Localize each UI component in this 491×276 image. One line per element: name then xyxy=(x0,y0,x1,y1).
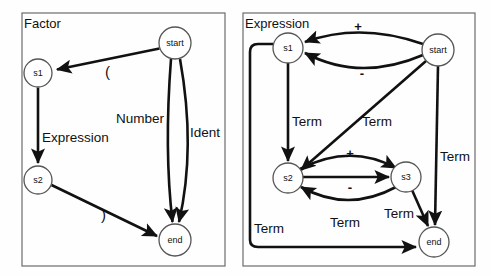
node-s1-expression-label: s1 xyxy=(283,43,293,53)
node-start-factor[interactable]: start xyxy=(159,27,191,59)
edge-label-open-paren: ( xyxy=(105,63,110,80)
panel-factor: Factor start s1 s2 en xyxy=(22,13,225,266)
edge-label-plus-mid: + xyxy=(346,146,354,161)
node-s2-factor[interactable]: s2 xyxy=(24,166,52,194)
diagram-canvas: Factor start s1 s2 en xyxy=(0,0,491,276)
node-s1-factor-label: s1 xyxy=(33,68,43,78)
node-start-expression[interactable]: start xyxy=(422,34,454,66)
node-end-factor[interactable]: end xyxy=(159,224,191,256)
edge-label-term-start-s2: Term xyxy=(362,114,392,129)
edge-label-minus-mid: - xyxy=(348,180,352,195)
node-s1-expression[interactable]: s1 xyxy=(273,33,303,63)
edge-start-to-end-term xyxy=(435,66,438,225)
node-start-factor-label: start xyxy=(166,38,184,48)
edge-label-expression: Expression xyxy=(42,130,109,145)
edge-label-term-s1-s2: Term xyxy=(292,114,322,129)
node-end-expression[interactable]: end xyxy=(419,227,449,257)
edge-label-term-s3-end: Term xyxy=(384,206,414,221)
node-end-factor-label: end xyxy=(167,235,182,245)
panel-expression-title: Expression xyxy=(245,16,309,31)
node-end-expression-label: end xyxy=(426,237,441,247)
edge-label-term-loop: Term xyxy=(254,221,284,236)
edge-label-ident: Ident xyxy=(190,125,220,140)
node-start-expression-label: start xyxy=(429,45,447,55)
edge-label-close-paren: ) xyxy=(101,206,106,223)
edge-label-plus-top: + xyxy=(354,19,362,34)
node-s2-factor-label: s2 xyxy=(33,175,43,185)
panel-expression: Expression s1 xyxy=(243,13,475,266)
edge-start-to-end-ident xyxy=(179,59,188,222)
node-s2-expression[interactable]: s2 xyxy=(273,163,303,193)
edge-label-number: Number xyxy=(116,111,165,126)
node-s2-expression-label: s2 xyxy=(283,173,293,183)
edge-label-term-start-end: Term xyxy=(440,149,470,164)
node-s1-factor[interactable]: s1 xyxy=(24,59,52,87)
edge-start-to-s1-plus xyxy=(305,32,423,44)
edge-label-term-s3-s2: Term xyxy=(330,215,360,230)
node-s3-expression[interactable]: s3 xyxy=(391,162,421,192)
panel-factor-title: Factor xyxy=(24,16,62,31)
edge-label-minus-top: - xyxy=(360,66,364,81)
edge-s3-to-end-term xyxy=(412,190,428,226)
diagram-svg: Factor start s1 s2 en xyxy=(0,0,491,276)
node-s3-expression-label: s3 xyxy=(401,172,411,182)
edge-start-to-end-number xyxy=(168,59,173,222)
